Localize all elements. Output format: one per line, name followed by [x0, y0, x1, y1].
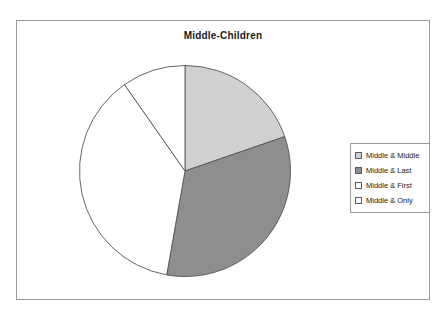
legend-item: Middle & Middle	[355, 148, 426, 163]
chart-title: Middle-Children	[16, 30, 430, 41]
legend-swatch	[355, 152, 362, 159]
legend-item-label: Middle & Last	[366, 167, 411, 175]
legend-swatch	[355, 182, 362, 189]
chart-legend: Middle & MiddleMiddle & LastMiddle & Fir…	[350, 143, 430, 213]
chart-container: Middle-Children Middle & MiddleMiddle & …	[0, 0, 447, 316]
legend-swatch	[355, 197, 362, 204]
legend-item: Middle & First	[355, 178, 426, 193]
legend-item-label: Middle & Middle	[366, 152, 419, 160]
legend-item: Middle & Only	[355, 193, 426, 208]
legend-item-label: Middle & Only	[366, 197, 413, 205]
pie-svg	[78, 64, 292, 278]
legend-swatch	[355, 167, 362, 174]
pie-chart	[78, 64, 292, 278]
legend-item-label: Middle & First	[366, 182, 412, 190]
legend-item: Middle & Last	[355, 163, 426, 178]
pie-slice-group	[79, 66, 290, 277]
